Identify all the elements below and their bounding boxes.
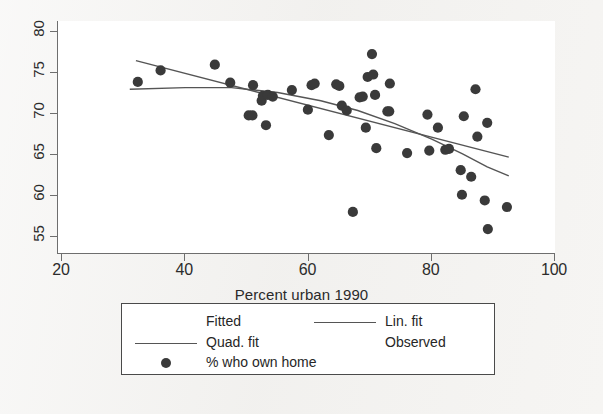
data-point xyxy=(287,85,297,95)
data-point xyxy=(156,65,166,75)
y-axis-tick-label: 70 xyxy=(0,102,46,119)
data-point xyxy=(385,78,395,88)
data-point xyxy=(457,190,467,200)
x-axis-tick xyxy=(308,254,309,261)
plot-area xyxy=(57,21,555,254)
x-axis-tick-label: 20 xyxy=(31,261,91,279)
y-axis-tick-label: 75 xyxy=(0,61,46,78)
y-axis-tick-label-text: 65 xyxy=(29,143,46,159)
data-point xyxy=(334,81,344,91)
y-axis-tick xyxy=(50,72,57,73)
legend-line-swatch xyxy=(135,343,197,344)
data-point xyxy=(133,77,143,87)
data-point xyxy=(466,172,476,182)
data-point xyxy=(370,90,380,100)
data-point xyxy=(261,120,271,130)
legend: FittedLin. fitQuad. fitObserved% who own… xyxy=(121,303,495,375)
legend-line-swatch xyxy=(314,322,376,323)
figure-container: 556065707580 20406080100 Percent urban 1… xyxy=(0,0,603,414)
data-point xyxy=(470,84,480,94)
x-axis-tick-label: 60 xyxy=(278,261,338,279)
data-point xyxy=(361,123,371,133)
data-point xyxy=(358,92,368,102)
data-point xyxy=(456,165,466,175)
y-axis-tick xyxy=(50,195,57,196)
y-axis-tick-label-text: 75 xyxy=(29,61,46,77)
y-axis-tick-label: 65 xyxy=(0,143,46,160)
y-axis-tick-label-text: 70 xyxy=(29,102,46,118)
x-axis-tick-label: 100 xyxy=(524,261,584,279)
y-axis-tick-label: 60 xyxy=(0,184,46,201)
data-point xyxy=(310,78,320,88)
data-point xyxy=(342,105,352,115)
data-point xyxy=(480,195,490,205)
x-axis-tick xyxy=(184,254,185,261)
y-axis-tick xyxy=(50,31,57,32)
scatter-plot-canvas xyxy=(58,21,556,254)
legend-entry-label: Fitted xyxy=(206,313,241,329)
data-point xyxy=(247,110,257,120)
data-point xyxy=(483,224,493,234)
data-point xyxy=(210,60,220,70)
data-point xyxy=(371,143,381,153)
data-point xyxy=(444,144,454,154)
y-axis-tick-label-text: 55 xyxy=(29,225,46,241)
legend-entry-label: Observed xyxy=(385,334,446,350)
lin-fit-path xyxy=(136,61,509,158)
y-axis-tick xyxy=(50,113,57,114)
x-axis-tick-label: 40 xyxy=(154,261,214,279)
data-point xyxy=(424,145,434,155)
y-axis-tick-label: 80 xyxy=(0,20,46,37)
data-point xyxy=(368,69,378,79)
data-point xyxy=(402,148,412,158)
y-axis-tick xyxy=(50,154,57,155)
y-axis-tick-label: 55 xyxy=(0,225,46,242)
data-point xyxy=(348,207,358,217)
x-axis-tick-label: 80 xyxy=(401,261,461,279)
quad-fit-path xyxy=(130,88,509,176)
data-point xyxy=(384,106,394,116)
x-axis-title: Percent urban 1990 xyxy=(0,286,603,303)
data-point xyxy=(502,202,512,212)
y-axis-tick-label-text: 60 xyxy=(29,184,46,200)
data-point xyxy=(459,111,469,121)
x-axis-tick xyxy=(554,254,555,261)
data-points-group xyxy=(133,49,512,234)
y-axis-tick xyxy=(50,236,57,237)
y-axis-tick-label-text: 80 xyxy=(29,21,46,37)
legend-entry-label: Quad. fit xyxy=(206,334,259,350)
lin-fit-line xyxy=(136,61,509,158)
data-point xyxy=(433,123,443,133)
x-axis-tick xyxy=(61,254,62,261)
data-point xyxy=(324,130,334,140)
data-point xyxy=(367,49,377,59)
data-point xyxy=(472,132,482,142)
legend-marker-swatch xyxy=(161,358,171,368)
data-point xyxy=(268,92,278,102)
data-point xyxy=(482,118,492,128)
data-point xyxy=(422,110,432,120)
legend-entry-label: % who own home xyxy=(206,354,317,370)
data-point xyxy=(248,80,258,90)
x-axis-tick xyxy=(431,254,432,261)
data-point xyxy=(303,105,313,115)
data-point xyxy=(225,78,235,88)
legend-entry-label: Lin. fit xyxy=(385,313,422,329)
quad-fit-line xyxy=(130,88,509,176)
